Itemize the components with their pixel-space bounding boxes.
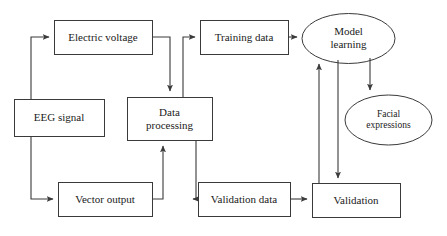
node-shape-validation-data xyxy=(199,183,291,217)
diagram-canvas-svg xyxy=(0,0,447,236)
node-shape-model-learning xyxy=(302,14,395,64)
node-shape-eeg-signal xyxy=(15,100,105,137)
node-shape-data-processing xyxy=(128,98,213,141)
node-shape-vector-output xyxy=(59,183,153,217)
node-shape-validation xyxy=(313,184,401,218)
node-shape-electric-voltage xyxy=(55,21,153,55)
flowchart-diagram: Electric voltage EEG signal Vector outpu… xyxy=(0,0,447,236)
edge-processing-to-validation-data xyxy=(193,140,196,199)
node-shape-training-data xyxy=(201,21,289,55)
edge-vector-output-to-processing xyxy=(152,146,163,199)
edge-eeg-to-vector-output xyxy=(31,136,53,199)
edge-processing-to-training-data xyxy=(183,37,195,97)
node-shape-facial-expressions xyxy=(345,95,432,145)
edge-electric-voltage-to-processing xyxy=(152,37,170,91)
edge-eeg-to-electric-voltage xyxy=(31,37,49,99)
